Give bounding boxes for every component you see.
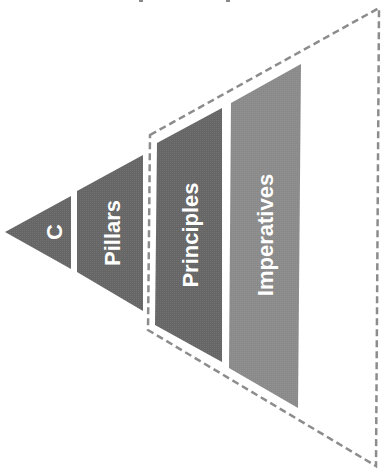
pyramid-svg: C Pillars Principles Imperatives: [0, 0, 389, 469]
tier-c-label: C: [42, 224, 67, 240]
tier-imperatives-label: Imperatives: [253, 174, 278, 296]
tier-pillars: Pillars: [77, 155, 143, 311]
cropped-text-fragment: [226, 0, 230, 2]
pyramid-diagram: C Pillars Principles Imperatives: [0, 0, 389, 469]
tier-pillars-label: Pillars: [100, 200, 125, 266]
tier-imperatives: Imperatives: [229, 64, 301, 408]
tier-principles-label: Principles: [178, 182, 203, 287]
tier-c: C: [5, 196, 71, 269]
cropped-text-fragment: [139, 0, 143, 2]
tier-principles: Principles: [155, 108, 222, 362]
